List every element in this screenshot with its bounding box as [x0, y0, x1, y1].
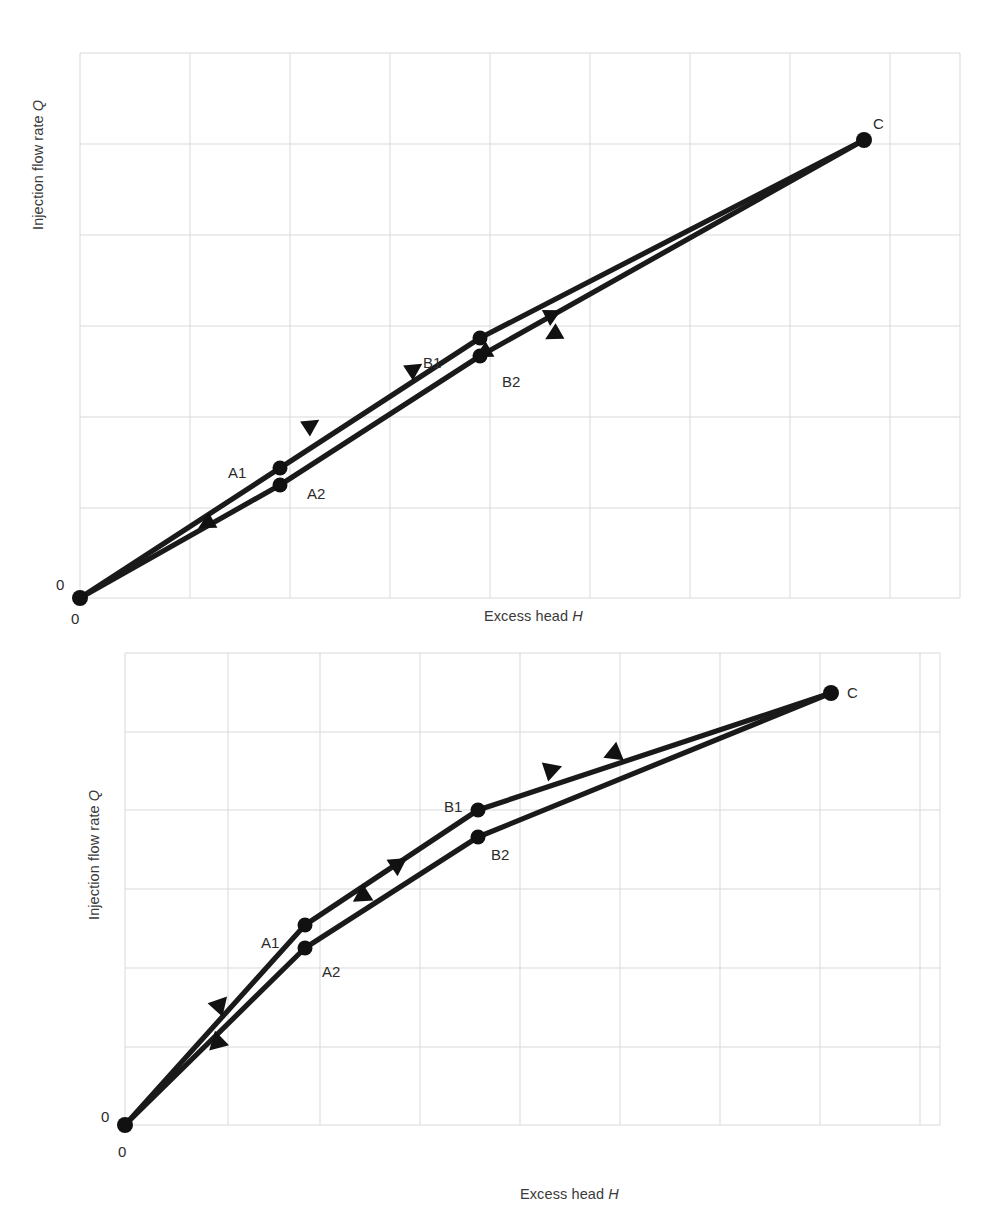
- point-label-B1-bottom: B1: [444, 798, 462, 815]
- point-label-B1-top: B1: [423, 354, 441, 371]
- bottom-unloading-path: [125, 693, 831, 1125]
- x-axis-title-bottom-text: Excess head: [520, 1186, 608, 1202]
- x-axis-title-bottom: Excess head H: [520, 1186, 619, 1202]
- y-axis-title-top-text: Injection flow rate: [30, 111, 46, 230]
- x-axis-symbol-bottom: H: [608, 1186, 619, 1202]
- top-unloading-path: [80, 140, 864, 598]
- point-B2: [471, 830, 486, 845]
- bottom-loading-arrowheads: [208, 757, 566, 1017]
- bottom-chart-plot: [0, 620, 999, 1226]
- origin-label-x-bottom: 0: [118, 1143, 126, 1160]
- bottom-unloading-arrowheads: [202, 742, 624, 1058]
- point-A2: [273, 478, 288, 493]
- y-axis-symbol-top: Q: [30, 100, 46, 111]
- chart-panel-top: Injection flow rate Q Excess head H 0 0 …: [0, 0, 999, 640]
- point-label-B2-bottom: B2: [491, 846, 509, 863]
- point-A2: [298, 941, 313, 956]
- point-C: [823, 685, 839, 701]
- point-B2: [473, 349, 488, 364]
- point-label-C-bottom: C: [847, 684, 858, 701]
- point-label-A1-top: A1: [228, 464, 246, 481]
- point-origin: [72, 590, 88, 606]
- grid-lines-top: [80, 53, 960, 598]
- point-B1: [471, 803, 486, 818]
- y-axis-symbol-bottom: Q: [86, 790, 102, 801]
- chart-panel-bottom: Injection flow rate Q: [0, 620, 999, 1226]
- point-label-A2-bottom: A2: [322, 963, 340, 980]
- point-origin: [117, 1117, 133, 1133]
- point-C: [856, 132, 872, 148]
- origin-label-y-top: 0: [56, 576, 64, 593]
- point-label-B2-top: B2: [502, 373, 520, 390]
- point-A1: [273, 461, 288, 476]
- origin-label-y-bottom: 0: [101, 1108, 109, 1125]
- top-chart-plot: [0, 0, 999, 640]
- point-A1: [298, 918, 313, 933]
- y-axis-title-bottom-text: Injection flow rate: [86, 801, 102, 920]
- bottom-loading-path: [125, 693, 831, 1125]
- bottom-data-points: [117, 685, 839, 1133]
- y-axis-title-top: Injection flow rate Q: [30, 100, 46, 230]
- point-B1: [473, 331, 488, 346]
- y-axis-title-bottom: Injection flow rate Q: [86, 790, 102, 920]
- point-label-A1-bottom: A1: [261, 934, 279, 951]
- grid-lines-bottom: [125, 653, 940, 1125]
- figure-two-panel-hysteresis: Injection flow rate Q Excess head H 0 0 …: [0, 0, 999, 1226]
- point-label-C-top: C: [873, 115, 884, 132]
- point-label-A2-top: A2: [307, 485, 325, 502]
